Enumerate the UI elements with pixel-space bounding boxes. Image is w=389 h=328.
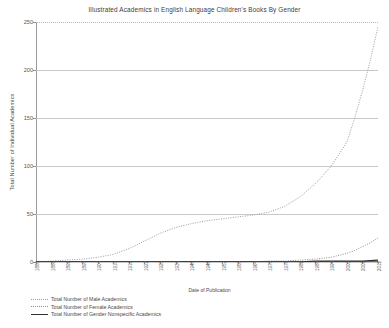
y-tick-label-250: 250	[24, 19, 33, 25]
x-tick-1904: 1904	[93, 262, 103, 271]
x-tick-1946: 1946	[202, 262, 212, 271]
chart-title: Illustrated Academics in English Languag…	[0, 6, 389, 13]
x-tick-1910: 1910	[109, 262, 119, 271]
x-tick-label: 1994	[331, 261, 336, 271]
x-tick-1916: 1916	[124, 262, 134, 271]
legend-label: Total Number of Female Academics	[51, 304, 133, 310]
x-tick-label: 1934	[176, 261, 181, 271]
x-tick-1898: 1898	[78, 262, 88, 271]
x-tick-label: 1922	[145, 261, 150, 271]
x-tick-1994: 1994	[326, 262, 336, 271]
x-tick-2012: 2012	[373, 262, 383, 271]
x-axis-ticks: 1880188618921898190419101916192219281934…	[36, 262, 378, 288]
x-tick-label: 2006	[362, 261, 367, 271]
x-tick-1880: 1880	[31, 262, 41, 271]
x-tick-1952: 1952	[217, 262, 227, 271]
legend-item-1[interactable]: Total Number of Female Academics	[31, 304, 161, 310]
x-tick-label: 1946	[207, 261, 212, 271]
chart-legend: Total Number of Male AcademicsTotal Numb…	[31, 296, 161, 317]
plot-area: 050100150200250	[36, 22, 378, 262]
series-line-0	[36, 27, 378, 262]
x-tick-label: 1982	[300, 261, 305, 271]
x-tick-label: 1970	[269, 261, 274, 271]
x-tick-label: 1892	[67, 261, 72, 271]
x-tick-1976: 1976	[280, 262, 290, 271]
x-tick-label: 1928	[160, 261, 165, 271]
x-tick-label: 1958	[238, 261, 243, 271]
y-tick-label-100: 100	[24, 163, 33, 169]
x-tick-1886: 1886	[46, 262, 56, 271]
x-tick-label: 1880	[36, 261, 41, 271]
x-tick-1964: 1964	[249, 262, 259, 271]
chart-figure: Illustrated Academics in English Languag…	[0, 0, 389, 328]
y-axis-label: Total Number of Individual Academics	[7, 22, 17, 262]
legend-item-0[interactable]: Total Number of Male Academics	[31, 296, 161, 302]
x-tick-label: 1916	[129, 261, 134, 271]
legend-label: Total Number of Male Academics	[51, 296, 127, 302]
x-tick-label: 1898	[83, 261, 88, 271]
legend-swatch-icon	[31, 306, 48, 307]
legend-swatch-icon	[31, 314, 48, 315]
y-tick-label-200: 200	[24, 67, 33, 73]
x-tick-1940: 1940	[186, 262, 196, 271]
x-tick-1922: 1922	[140, 262, 150, 271]
series-lines	[36, 22, 378, 262]
series-line-1	[36, 238, 378, 262]
x-tick-label: 1988	[316, 261, 321, 271]
x-tick-label: 1964	[254, 261, 259, 271]
x-tick-1982: 1982	[295, 262, 305, 271]
x-tick-1934: 1934	[171, 262, 181, 271]
legend-label: Total Number of Gender Nonspecific Acade…	[51, 311, 161, 317]
x-tick-1958: 1958	[233, 262, 243, 271]
x-axis-label: Date of Publication	[0, 287, 389, 293]
x-tick-1970: 1970	[264, 262, 274, 271]
x-tick-label: 2000	[347, 261, 352, 271]
x-tick-1892: 1892	[62, 262, 72, 271]
x-tick-label: 1952	[223, 261, 228, 271]
x-tick-1928: 1928	[155, 262, 165, 271]
y-tick-label-150: 150	[24, 115, 33, 121]
legend-swatch-icon	[31, 299, 48, 300]
x-tick-label: 1940	[191, 261, 196, 271]
legend-item-2[interactable]: Total Number of Gender Nonspecific Acade…	[31, 311, 161, 317]
x-tick-label: 1886	[52, 261, 57, 271]
y-axis-label-text: Total Number of Individual Academics	[9, 94, 15, 191]
x-tick-label: 1910	[114, 261, 119, 271]
x-tick-label: 2012	[378, 261, 383, 271]
x-tick-label: 1976	[285, 261, 290, 271]
x-tick-label: 1904	[98, 261, 103, 271]
x-tick-2006: 2006	[357, 262, 367, 271]
x-tick-1988: 1988	[311, 262, 321, 271]
x-tick-2000: 2000	[342, 262, 352, 271]
